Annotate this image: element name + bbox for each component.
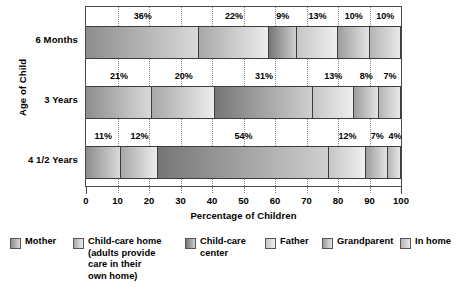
bar-segment [388, 146, 401, 179]
x-tick-label-90: 90 [364, 195, 375, 206]
segment-value-label: 7% [366, 129, 388, 144]
bar-segment [86, 146, 121, 179]
segment-value-label: 21% [86, 69, 152, 84]
segment-labels: 36%22%9%13%10%10% [86, 9, 401, 25]
segment-value-label: 7% [379, 69, 401, 84]
segment-value-label: 11% [86, 129, 121, 144]
bar-segment [215, 86, 313, 119]
legend-item[interactable]: Grandparent [322, 236, 407, 249]
category-label-4-5-years: 4 1/2 Years [28, 154, 78, 165]
bar-segment [121, 146, 159, 179]
segment-value-label: 10% [370, 9, 402, 24]
x-tick-70 [307, 187, 308, 193]
bar-row: 11%12%54%12%7%4% [86, 127, 401, 187]
bar-segment [313, 86, 354, 119]
bar-row: 21%20%31%13%8%7% [86, 67, 401, 127]
legend-label: In home [415, 236, 451, 248]
legend-item[interactable]: Mother [10, 236, 70, 249]
x-tick-90 [370, 187, 371, 193]
segment-value-label: 8% [354, 69, 379, 84]
segment-value-label: 12% [121, 129, 159, 144]
x-axis-ticks [85, 187, 402, 195]
category-label-3-years: 3 Years [44, 94, 78, 105]
bar-segment [86, 26, 199, 59]
plot-area: 36%22%9%13%10%10%21%20%31%13%8%7%11%12%5… [85, 6, 402, 187]
segment-value-label: 31% [215, 69, 313, 84]
bar-segment [354, 86, 379, 119]
legend-item[interactable]: Child-care home (adults provide care in … [73, 236, 183, 282]
legend-item[interactable]: In home [400, 236, 456, 249]
stacked-bar [86, 26, 401, 59]
x-tick-label-30: 30 [175, 195, 186, 206]
x-tick-label-20: 20 [144, 195, 155, 206]
x-tick-label-60: 60 [270, 195, 281, 206]
legend-swatch-icon [265, 238, 276, 249]
legend-swatch-icon [185, 238, 196, 249]
x-tick-100 [401, 187, 402, 194]
segment-value-label: 13% [313, 69, 354, 84]
segment-value-label: 54% [158, 129, 328, 144]
bar-segment [338, 26, 370, 59]
segment-labels: 21%20%31%13%8%7% [86, 69, 401, 85]
x-tick-60 [275, 187, 276, 193]
legend-item[interactable]: Father [265, 236, 321, 249]
legend-swatch-icon [400, 238, 411, 249]
legend-label: Child-care home (adults provide care in … [88, 236, 162, 282]
bar-segment [199, 26, 268, 59]
bar-segment [269, 26, 297, 59]
x-tick-label-100: 100 [393, 195, 409, 206]
segment-value-label: 10% [338, 9, 370, 24]
legend: MotherChild-care home (adults provide ca… [10, 236, 410, 290]
x-tick-label-80: 80 [333, 195, 344, 206]
x-tick-30 [181, 187, 182, 193]
bar-row: 36%22%9%13%10%10% [86, 7, 401, 67]
legend-item[interactable]: Child-care center [185, 236, 263, 259]
bar-segment [366, 146, 388, 179]
bar-segment [152, 86, 215, 119]
x-tick-label-70: 70 [301, 195, 312, 206]
x-tick-40 [212, 187, 213, 193]
segment-labels: 11%12%54%12%7%4% [86, 129, 401, 145]
x-tick-50 [244, 187, 245, 193]
segment-value-label: 36% [86, 9, 199, 24]
x-tick-label-40: 40 [207, 195, 218, 206]
bar-segment [379, 86, 401, 119]
segment-value-label: 13% [297, 9, 338, 24]
bar-segment [329, 146, 367, 179]
x-tick-label-50: 50 [238, 195, 249, 206]
legend-swatch-icon [10, 238, 21, 249]
legend-label: Father [280, 236, 309, 248]
bar-segment [370, 26, 402, 59]
legend-swatch-icon [322, 238, 333, 249]
x-tick-label-0: 0 [83, 195, 88, 206]
bar-segment [297, 26, 338, 59]
stacked-bar [86, 146, 401, 179]
bar-segment [86, 86, 152, 119]
segment-value-label: 20% [152, 69, 215, 84]
x-tick-0 [86, 187, 87, 194]
stacked-bar [86, 86, 401, 119]
x-tick-20 [149, 187, 150, 193]
category-axis-labels: 6 Months 3 Years 4 1/2 Years [0, 6, 82, 187]
x-tick-label-10: 10 [112, 195, 123, 206]
bar-rows: 36%22%9%13%10%10%21%20%31%13%8%7%11%12%5… [86, 7, 401, 186]
segment-value-label: 12% [329, 129, 367, 144]
x-axis-title: Percentage of Children [85, 210, 402, 221]
legend-swatch-icon [73, 238, 84, 249]
segment-value-label: 4% [388, 129, 401, 144]
category-label-6-months: 6 Months [36, 34, 79, 45]
x-axis-tick-labels: 0102030405060708090100 [85, 195, 402, 209]
segment-value-label: 9% [269, 9, 297, 24]
bar-segment [158, 146, 328, 179]
x-tick-80 [338, 187, 339, 193]
x-tick-10 [118, 187, 119, 193]
legend-label: Mother [25, 236, 56, 248]
segment-value-label: 22% [199, 9, 268, 24]
legend-label: Grandparent [337, 236, 393, 248]
legend-label: Child-care center [200, 236, 246, 259]
